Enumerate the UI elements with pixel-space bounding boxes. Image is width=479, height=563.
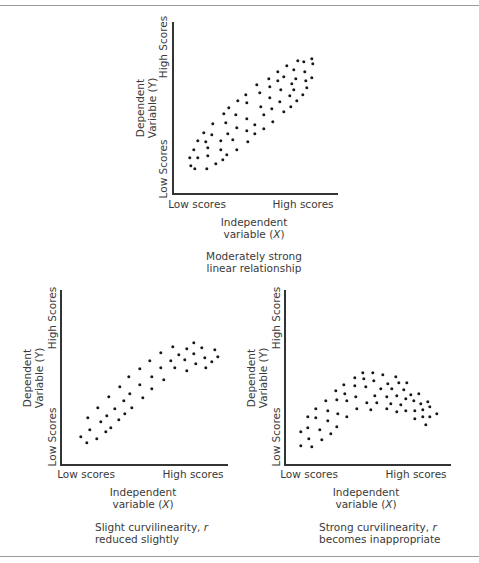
data-point <box>336 412 339 415</box>
data-point <box>369 408 372 411</box>
y-title-line1: Dependent <box>21 349 33 407</box>
data-point <box>413 409 416 412</box>
data-point <box>395 394 398 397</box>
data-point <box>304 79 307 82</box>
data-point <box>219 148 222 151</box>
data-point <box>412 399 415 402</box>
data-point <box>355 407 358 410</box>
data-point <box>371 371 374 374</box>
data-point <box>375 401 378 404</box>
data-point <box>205 167 208 170</box>
data-point <box>203 356 206 359</box>
data-point <box>310 445 313 448</box>
plot-caption: Strong curvilinearity, r becomes inappro… <box>0 521 441 545</box>
bottom-rule <box>0 556 479 557</box>
data-point <box>235 148 238 151</box>
data-point <box>402 388 405 391</box>
data-point <box>409 393 412 396</box>
data-point <box>296 59 299 62</box>
data-point <box>253 123 256 126</box>
data-point <box>211 122 214 125</box>
data-point <box>267 77 270 80</box>
data-point <box>200 346 203 349</box>
data-point <box>128 392 131 395</box>
data-point <box>334 389 337 392</box>
data-point <box>270 107 273 110</box>
data-point <box>385 395 388 398</box>
data-point <box>345 415 348 418</box>
data-point <box>173 366 176 369</box>
data-point <box>225 153 228 156</box>
data-point <box>236 99 239 102</box>
data-point <box>79 435 82 438</box>
data-point <box>292 68 295 71</box>
data-point <box>385 407 388 410</box>
data-point <box>311 62 314 65</box>
data-point <box>204 366 207 369</box>
data-point <box>361 371 364 374</box>
data-point <box>104 430 107 433</box>
data-point <box>219 139 222 142</box>
data-point <box>231 138 234 141</box>
data-point <box>224 121 227 124</box>
data-point <box>295 99 298 102</box>
y-title-line2: Variable (Y) <box>257 348 269 408</box>
caption-line2: becomes inappropriate <box>319 533 441 545</box>
data-point <box>123 412 126 415</box>
data-point <box>279 88 282 91</box>
data-point <box>399 403 402 406</box>
y-axis <box>284 290 286 465</box>
x-tick-high: High scores <box>385 468 446 480</box>
data-point <box>204 140 207 143</box>
data-point <box>222 112 225 115</box>
data-point <box>282 75 285 78</box>
data-point <box>404 397 407 400</box>
data-point <box>255 83 258 86</box>
data-point <box>405 381 408 384</box>
y-axis-title: Dependent Variable (Y) <box>21 348 45 408</box>
data-point <box>276 70 279 73</box>
data-point <box>213 348 216 351</box>
data-point <box>210 133 213 136</box>
data-point <box>394 375 397 378</box>
data-point <box>303 70 306 73</box>
y-axis <box>60 290 62 465</box>
data-point <box>192 352 195 355</box>
data-point <box>189 164 192 167</box>
data-point <box>86 416 89 419</box>
y-tick-high: High Scores <box>46 287 58 349</box>
x-axis <box>284 464 451 466</box>
data-point <box>310 57 313 60</box>
caption-line2: linear relationship <box>207 262 302 274</box>
plot-caption: Moderately strong linear relationship <box>206 250 302 274</box>
data-point <box>435 412 438 415</box>
data-point <box>192 148 195 151</box>
y-title-line2: Variable (Y) <box>146 78 158 138</box>
data-point <box>141 396 144 399</box>
y-title-line2: Variable (Y) <box>33 348 45 408</box>
data-point <box>245 117 248 120</box>
data-point <box>353 384 356 387</box>
data-point <box>299 444 302 447</box>
data-point <box>326 409 329 412</box>
data-point <box>318 428 321 431</box>
data-point <box>282 110 285 113</box>
data-point <box>421 408 424 411</box>
data-point <box>268 85 271 88</box>
data-point <box>289 105 292 108</box>
data-point <box>329 432 332 435</box>
x-tick-high: High scores <box>162 468 223 480</box>
data-point <box>428 415 431 418</box>
data-point <box>171 345 174 348</box>
x-title-line2: variable (X) <box>223 228 284 240</box>
data-point <box>335 398 338 401</box>
data-point <box>245 129 248 132</box>
x-title-line2: variable (X) <box>112 498 173 510</box>
data-point <box>288 94 291 97</box>
data-point <box>188 156 191 159</box>
data-point <box>150 375 153 378</box>
data-point <box>290 82 293 85</box>
data-point <box>306 415 309 418</box>
x-axis-title: Independent variable (X) <box>110 486 177 510</box>
x-title-line1: Independent <box>221 216 288 228</box>
